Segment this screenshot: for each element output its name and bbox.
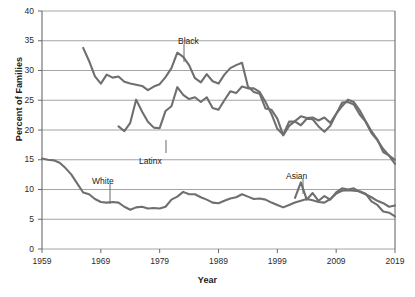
series-line-asian — [295, 182, 395, 206]
x-tick-label: 1999 — [257, 256, 297, 266]
x-axis-title: Year — [0, 275, 415, 285]
y-tick-label: 10 — [12, 184, 34, 194]
series-label-latinx: Latinx — [139, 156, 162, 166]
y-tick-label: 40 — [12, 6, 34, 16]
y-tick-label: 25 — [12, 95, 34, 105]
series-label-white: White — [92, 176, 114, 186]
y-tick-label: 30 — [12, 65, 34, 75]
x-tick-label: 1979 — [140, 256, 180, 266]
y-tick-label: 35 — [12, 35, 34, 45]
y-tick-label: 5 — [12, 214, 34, 224]
x-tick-label: 1989 — [199, 256, 239, 266]
x-axis-ticks — [42, 249, 395, 253]
series-label-asian: Asian — [286, 171, 307, 181]
series-line-latinx — [118, 87, 395, 164]
series-line-black — [83, 48, 395, 160]
y-axis-ticks — [38, 11, 42, 249]
y-tick-label: 0 — [12, 244, 34, 254]
gridlines — [42, 11, 395, 249]
y-tick-label: 20 — [12, 125, 34, 135]
y-tick-label: 15 — [12, 154, 34, 164]
annotation-leader-lines — [110, 44, 303, 204]
chart-container: Percent of Families Year 051015202530354… — [0, 0, 415, 297]
x-tick-label: 2009 — [316, 256, 356, 266]
data-series-group — [42, 48, 395, 216]
x-tick-label: 2019 — [375, 256, 415, 266]
series-label-black: Black — [178, 36, 199, 46]
x-tick-label: 1959 — [22, 256, 62, 266]
line-chart-plot — [0, 0, 415, 297]
x-tick-label: 1969 — [81, 256, 121, 266]
